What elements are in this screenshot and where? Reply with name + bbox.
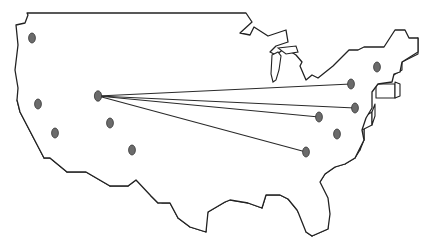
location-marker[interactable] [334, 129, 341, 139]
us-map-outline [15, 13, 418, 236]
us-map-svg [0, 0, 432, 245]
location-marker[interactable] [129, 145, 136, 155]
location-marker[interactable] [35, 99, 42, 109]
location-marker[interactable] [29, 33, 36, 43]
location-marker[interactable] [316, 112, 323, 122]
location-marker[interactable] [303, 147, 310, 157]
location-marker[interactable] [352, 103, 359, 113]
location-marker[interactable] [374, 62, 381, 72]
location-marker[interactable] [52, 128, 59, 138]
location-marker[interactable] [348, 79, 355, 89]
hub-marker[interactable] [94, 91, 101, 101]
location-marker[interactable] [107, 118, 114, 128]
us-map-figure [0, 0, 432, 245]
